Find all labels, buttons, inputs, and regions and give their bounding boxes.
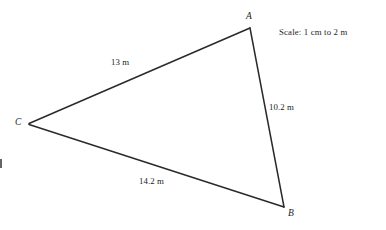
triangle-edge-cb bbox=[29, 125, 284, 208]
side-length-label-cb: 14.2 m bbox=[139, 177, 164, 186]
triangle-edge-ab bbox=[250, 28, 284, 207]
left-edge-artifact-mark bbox=[0, 159, 2, 168]
vertex-label-b: B bbox=[288, 209, 294, 219]
triangle-diagram: A B C 13 m 10.2 m 14.2 m Scale: 1 cm to … bbox=[0, 0, 386, 230]
vertex-label-a: A bbox=[246, 12, 252, 22]
side-length-label-ab: 10.2 m bbox=[269, 103, 294, 112]
side-length-label-ca: 13 m bbox=[111, 58, 129, 67]
vertex-label-c: C bbox=[15, 118, 22, 128]
scale-note: Scale: 1 cm to 2 m bbox=[279, 28, 347, 37]
triangle-edge-ca bbox=[29, 28, 250, 124]
